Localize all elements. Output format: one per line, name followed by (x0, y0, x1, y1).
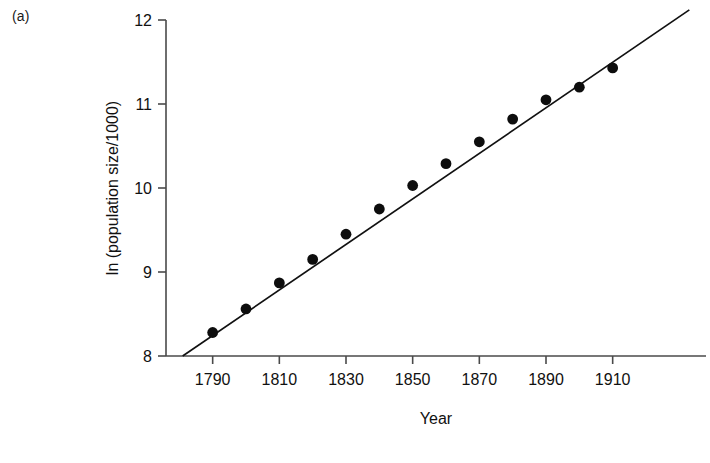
x-tick-label: 1790 (195, 371, 231, 388)
data-point (474, 136, 485, 147)
data-point (307, 254, 318, 265)
y-tick-label: 9 (143, 264, 152, 281)
x-tick-label: 1870 (462, 371, 498, 388)
y-tick-label: 10 (134, 180, 152, 197)
data-point (574, 82, 585, 93)
regression-line (183, 10, 690, 356)
x-tick-label: 1830 (328, 371, 364, 388)
data-point (341, 229, 352, 240)
y-tick-label: 11 (135, 96, 152, 113)
x-tick-group: 1790181018301850187018901910 (195, 356, 631, 388)
y-tick-label: 8 (143, 348, 152, 365)
plot-svg: 89101112 1790181018301850187018901910 Ye… (0, 0, 710, 463)
data-point (274, 278, 285, 289)
y-tick-group: 89101112 (134, 12, 166, 365)
data-point (607, 62, 618, 73)
x-tick-label: 1810 (262, 371, 298, 388)
data-point (207, 327, 218, 338)
data-point (541, 94, 552, 105)
scatter-plot: 89101112 1790181018301850187018901910 Ye… (0, 0, 710, 463)
data-point (241, 304, 252, 315)
data-point (374, 204, 385, 215)
data-point (407, 180, 418, 191)
y-axis-title: ln (population size/1000) (104, 101, 121, 275)
data-point (507, 114, 518, 125)
y-tick-label: 12 (134, 12, 152, 29)
x-tick-label: 1910 (595, 371, 631, 388)
regression-line-group (183, 10, 690, 356)
figure-panel: (a) 89101112 179018101830185018701890191… (0, 0, 710, 463)
x-tick-label: 1850 (395, 371, 431, 388)
x-tick-label: 1890 (528, 371, 564, 388)
data-point (441, 158, 452, 169)
x-axis-title: Year (420, 410, 453, 427)
